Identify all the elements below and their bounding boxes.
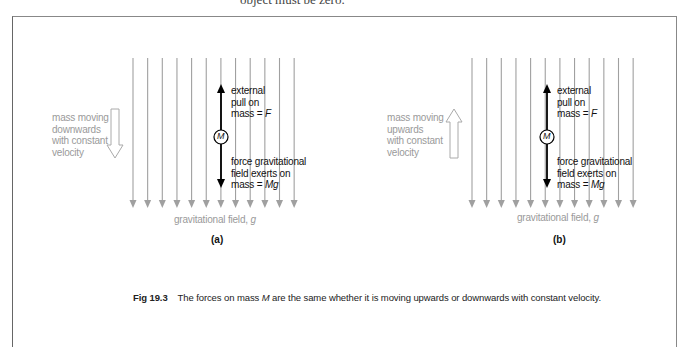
mass-symbol-b: M: [543, 131, 550, 143]
up-arrowhead-icon: [217, 84, 225, 93]
down-arrowhead-icon: [217, 179, 225, 188]
panel-label-a: (a): [211, 234, 223, 245]
external-pull-label-b: externalpull on mass = F: [557, 85, 597, 120]
field-arrowhead-icon: [247, 200, 254, 208]
field-arrowhead-icon: [586, 200, 593, 208]
motion-label-b: mass movingupwardswith constantvelocity: [387, 112, 444, 158]
field-arrowhead-icon: [630, 200, 637, 208]
down-arrowhead-icon: [543, 179, 551, 188]
field-arrowhead-icon: [498, 200, 505, 208]
figure-caption: Fig 19.3The forces on mass M are the sam…: [133, 292, 601, 303]
field-arrowhead-icon: [600, 200, 607, 208]
field-arrowhead-icon: [527, 200, 534, 208]
field-arrowhead-icon: [512, 200, 519, 208]
field-arrowhead-icon: [483, 200, 490, 208]
external-pull-label-a: externalpull on mass = F: [231, 85, 271, 120]
field-arrowhead-icon: [615, 200, 622, 208]
panel-label-b: (b): [553, 234, 566, 245]
field-arrowhead-icon: [144, 200, 151, 208]
field-label-b: gravitational field, g: [517, 212, 599, 224]
field-arrowhead-icon: [542, 200, 549, 208]
field-arrowhead-icon: [217, 200, 224, 208]
field-arrowhead-icon: [571, 200, 578, 208]
up-arrowhead-icon: [543, 84, 551, 93]
field-arrowhead-icon: [291, 200, 298, 208]
field-arrowhead-icon: [469, 200, 476, 208]
mass-symbol-a: M: [217, 131, 224, 143]
gravity-force-label-a: force gravitationalfield exerts on mass …: [231, 156, 306, 191]
motion-label-a: mass movingdownwardswith constantvelocit…: [52, 112, 109, 158]
hollow-up-arrow-icon: [446, 109, 462, 158]
field-arrowhead-icon: [159, 200, 166, 208]
hollow-down-arrow-icon: [107, 109, 123, 158]
figure-number: Fig 19.3: [133, 292, 168, 303]
field-arrowhead-icon: [130, 200, 137, 208]
gravity-force-label-b: force gravitationalfield exerts on mass …: [557, 156, 632, 191]
field-label-a: gravitational field, g: [174, 214, 256, 226]
field-arrowhead-icon: [203, 200, 210, 208]
field-arrowhead-icon: [188, 200, 195, 208]
field-arrowhead-icon: [232, 200, 239, 208]
field-arrowhead-icon: [276, 200, 283, 208]
field-arrowhead-icon: [261, 200, 268, 208]
field-arrowhead-icon: [556, 200, 563, 208]
field-arrowhead-icon: [173, 200, 180, 208]
